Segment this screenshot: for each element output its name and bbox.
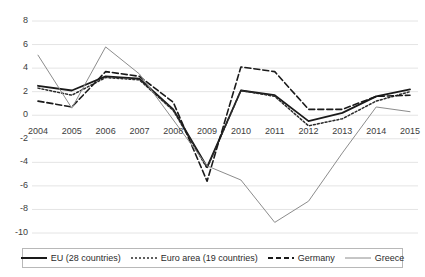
legend-label: EU (28 countries): [51, 253, 121, 263]
legend-swatch-euro-area-19-countries: [131, 253, 157, 263]
x-axis-tick-label: 2004: [21, 127, 55, 136]
y-axis-tick-label: -10: [4, 228, 28, 237]
legend-swatch-eu-28-countries: [21, 253, 47, 263]
chart-plot-area: [0, 0, 425, 277]
legend-label: Euro area (19 countries): [161, 253, 258, 263]
x-axis-tick-label: 2006: [89, 127, 123, 136]
legend-swatch-germany: [268, 253, 294, 263]
y-axis-tick-label: 4: [4, 63, 28, 72]
legend-label: Germany: [298, 253, 335, 263]
legend-item[interactable]: Germany: [268, 253, 335, 263]
legend-swatch-greece: [345, 253, 371, 263]
x-axis-tick-label: 2008: [156, 127, 190, 136]
legend-item[interactable]: Euro area (19 countries): [131, 253, 258, 263]
y-axis-tick-label: 6: [4, 40, 28, 49]
x-axis-tick-label: 2015: [393, 127, 425, 136]
x-axis-tick-label: 2014: [359, 127, 393, 136]
x-axis-tick-label: 2013: [325, 127, 359, 136]
x-axis-tick-label: 2009: [190, 127, 224, 136]
x-axis-tick-label: 2010: [224, 127, 258, 136]
x-axis-tick-label: 2011: [258, 127, 292, 136]
legend-item[interactable]: EU (28 countries): [21, 253, 121, 263]
y-axis-tick-label: -6: [4, 181, 28, 190]
x-axis-tick-label: 2007: [122, 127, 156, 136]
legend-item[interactable]: Greece: [345, 253, 405, 263]
line-chart: 86420-2-4-6-8-10 20042005200620072008200…: [0, 0, 425, 277]
legend-label: Greece: [375, 253, 405, 263]
x-axis-tick-label: 2005: [55, 127, 89, 136]
y-axis-tick-label: -8: [4, 204, 28, 213]
y-axis-tick-label: -4: [4, 157, 28, 166]
y-axis-tick-label: 2: [4, 87, 28, 96]
y-axis-tick-label: 0: [4, 110, 28, 119]
series-line-germany: [38, 67, 410, 181]
chart-legend: EU (28 countries)Euro area (19 countries…: [22, 248, 403, 268]
x-axis-tick-label: 2012: [292, 127, 326, 136]
y-axis-tick-label: 8: [4, 16, 28, 25]
